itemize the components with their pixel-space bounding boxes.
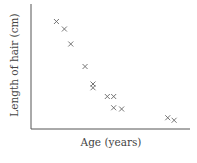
data-points [54,19,177,123]
y-axis-label: Length of hair (cm) [8,13,20,116]
x-marker-icon [105,94,110,99]
x-marker-icon [172,118,177,123]
y-axis-label-wrap: Length of hair (cm) [2,0,26,130]
x-marker-icon [54,19,59,24]
x-axis-label: Age (years) [31,136,191,148]
x-marker-icon [111,94,116,99]
x-marker-icon [111,105,116,110]
x-marker-icon [91,85,96,90]
x-marker-icon [68,42,73,47]
x-marker-icon [119,107,124,112]
x-marker-icon [165,115,170,120]
x-marker-icon [83,64,88,69]
x-marker-icon [62,27,67,32]
